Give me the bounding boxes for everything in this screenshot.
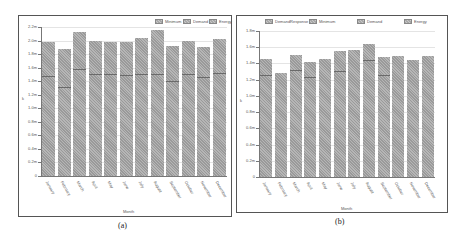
bar-august [151, 30, 164, 176]
legend-item-demand: Demand [183, 19, 208, 24]
bar-february [275, 73, 287, 177]
legend-item-energy: Energy [404, 19, 427, 24]
x-tick-label: November [199, 180, 213, 198]
bar-may [319, 59, 331, 177]
legend-label: Demand [193, 19, 208, 24]
demand-marker-line [363, 60, 375, 61]
x-tick-label: April [306, 181, 314, 190]
legend-item-minimum: Minimum [155, 19, 181, 24]
legend-item-demand: Demand [357, 19, 382, 24]
demand-marker-line [135, 74, 148, 75]
bar-july [348, 50, 360, 177]
demand-marker-line [166, 81, 179, 82]
y-axis-title-b: k [240, 98, 242, 103]
gridline [41, 27, 227, 28]
x-tick-label: December [215, 180, 229, 198]
y-tick-label: 0.4m [21, 146, 37, 151]
y-tick-label: 1.8m [21, 51, 37, 56]
legend-label: Minimum [165, 19, 181, 24]
x-tick-label: December [423, 181, 437, 199]
x-tick-label: May [321, 181, 329, 190]
y-tick-label: 1.6m [21, 65, 37, 70]
demand-marker-line [89, 74, 102, 75]
y-axis-title-a: k [22, 96, 24, 101]
plot-area-b: 00.2m0.4m0.6m0.8m1.0m1.2m1.4m1.6m1.8mJan… [259, 31, 435, 177]
bar-march [73, 32, 86, 176]
y-tick-label: 1.4m [239, 60, 255, 65]
y-tick-label: 0 [21, 173, 37, 178]
y-tick-label: 0 [239, 174, 255, 179]
demand-marker-line [304, 77, 316, 78]
bar-march [290, 55, 302, 177]
x-tick-label: April [91, 180, 99, 189]
bar-june [120, 42, 133, 176]
caption-a: (a) [118, 221, 127, 230]
legend-item-energy: Energy [209, 19, 232, 24]
demand-marker-line [213, 73, 226, 74]
x-tick-label: July [350, 181, 358, 190]
demand-marker-line [151, 74, 164, 75]
x-tick-label: August [365, 181, 376, 194]
legend-label: DemandResponse [275, 19, 308, 24]
bar-january [260, 59, 272, 177]
x-tick-label: March [291, 181, 301, 193]
bar-june [334, 51, 346, 177]
y-tick-label: 1.0m [21, 105, 37, 110]
bar-november [197, 47, 210, 176]
x-tick-label: October [394, 181, 405, 196]
y-tick-label: 0.2m [21, 159, 37, 164]
legend-swatch [265, 19, 273, 24]
y-tick-label: 2.2m [21, 24, 37, 29]
demand-marker-line [42, 76, 55, 77]
y-tick-label: 0.6m [21, 132, 37, 137]
x-tick-label: October [184, 180, 195, 195]
gridline [259, 47, 435, 48]
legend-item-demandresponse: DemandResponse [265, 19, 308, 24]
y-tick-label: 1.2m [239, 77, 255, 82]
y-tick-label: 1.8m [239, 28, 255, 33]
x-axis [259, 177, 435, 178]
legend-item-minimum: Minimum [309, 19, 335, 24]
y-tick-label: 0.8m [239, 109, 255, 114]
legend-label: Energy [219, 19, 232, 24]
y-tick-label: 0.2m [239, 158, 255, 163]
demand-marker-line [260, 75, 272, 76]
bar-february [58, 49, 71, 176]
bar-december [422, 56, 434, 177]
y-tick-label: 0.6m [239, 125, 255, 130]
bar-may [104, 42, 117, 176]
legend-label: Energy [414, 19, 427, 24]
caption-b: (b) [335, 217, 344, 226]
x-axis [41, 176, 227, 177]
bar-september [378, 57, 390, 177]
demand-marker-line [104, 74, 117, 75]
chart-panel-b: DemandResponse Minimum Demand Energy 00.… [236, 15, 448, 213]
gridline [41, 41, 227, 42]
demand-marker-line [334, 71, 346, 72]
bar-january [42, 42, 55, 176]
legend-swatch [183, 19, 191, 24]
bar-april [304, 62, 316, 177]
demand-marker-line [197, 77, 210, 78]
demand-marker-line [182, 74, 195, 75]
bar-december [213, 39, 226, 176]
x-tick-label: June [122, 180, 131, 190]
legend-label: Demand [367, 19, 382, 24]
bar-august [363, 44, 375, 177]
bar-july [135, 38, 148, 176]
x-tick-label: November [409, 181, 423, 199]
bar-november [407, 60, 419, 177]
legend-swatch [357, 19, 365, 24]
demand-marker-line [378, 75, 390, 76]
x-tick-label: July [137, 180, 145, 189]
legend-label: Minimum [319, 19, 335, 24]
x-axis-title-a: Month [123, 209, 134, 214]
legend-swatch [309, 19, 317, 24]
x-axis-title-b: Month [341, 206, 352, 211]
x-tick-label: February [277, 181, 289, 197]
bar-october [392, 56, 404, 177]
bar-october [182, 41, 195, 176]
y-tick-label: 0.4m [239, 142, 255, 147]
plot-area-a: 00.2m0.4m0.6m0.8m1.0m1.2m1.4m1.6m1.8m2.0… [41, 27, 227, 176]
y-tick-label: 1.6m [239, 44, 255, 49]
